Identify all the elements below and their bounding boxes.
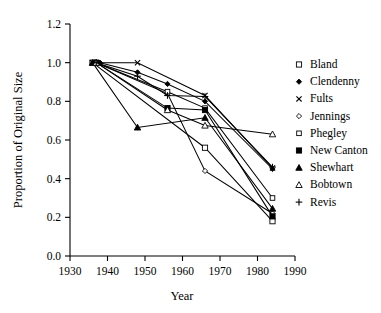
series-clendenny: [97, 60, 275, 172]
data-point-marker: [202, 168, 207, 173]
data-point-marker: [296, 62, 301, 67]
x-tick-label: 1990: [284, 265, 307, 277]
x-tick-label: 1940: [96, 265, 119, 277]
series-polyline: [100, 63, 273, 169]
legend-item-jennings[interactable]: Jennings: [296, 110, 350, 123]
y-tick-label: 0.0: [47, 250, 62, 262]
legend-item-bland[interactable]: Bland: [296, 58, 337, 70]
data-point-marker: [296, 165, 302, 171]
x-tick-label: 1950: [134, 265, 157, 277]
legend-item-label: Jennings: [310, 110, 351, 123]
data-point-marker: [202, 122, 208, 128]
legend-item-label: Clendenny: [310, 75, 360, 88]
y-tick-label: 0.4: [47, 173, 62, 185]
data-point-marker: [202, 115, 208, 121]
legend-item-bobtown[interactable]: Bobtown: [296, 178, 353, 190]
legend-item-shewhart[interactable]: Shewhart: [296, 161, 354, 173]
data-point-marker: [296, 96, 301, 101]
legend-item-fults[interactable]: Fults: [296, 92, 333, 104]
x-tick-label: 1930: [59, 265, 82, 277]
legend: BlandClendennyFultsJenningsPhegleyNew Ca…: [296, 58, 368, 208]
data-point-marker: [297, 131, 302, 136]
line-chart: 0.00.20.40.60.81.01.2 193019401950196019…: [0, 0, 381, 313]
legend-item-label: Shewhart: [310, 161, 354, 173]
series-revis: [93, 59, 276, 170]
y-tick-label: 0.6: [47, 134, 62, 146]
data-point-marker: [270, 214, 275, 219]
legend-item-new-canton[interactable]: New Canton: [296, 144, 368, 156]
data-point-marker: [296, 114, 301, 119]
x-tick-label: 1970: [209, 265, 232, 277]
legend-item-label: Phegley: [310, 127, 347, 140]
x-axis-ticks: 1930194019501960197019801990: [59, 256, 307, 277]
legend-item-clendenny[interactable]: Clendenny: [296, 75, 360, 88]
data-point-marker: [165, 81, 170, 86]
y-axis-title: Proportion of Original Size: [11, 71, 25, 208]
series-polyline: [96, 63, 272, 167]
series-shewhart: [89, 59, 275, 211]
legend-item-label: Revis: [310, 196, 337, 208]
data-point-marker: [296, 148, 301, 153]
series-phegley: [94, 60, 275, 200]
series-container: [89, 59, 275, 223]
y-axis-ticks: 0.00.20.40.60.81.01.2: [47, 18, 70, 262]
x-tick-label: 1960: [171, 265, 194, 277]
data-point-marker: [296, 79, 301, 84]
data-point-marker: [202, 145, 207, 150]
y-tick-label: 1.0: [47, 57, 62, 69]
y-tick-label: 0.2: [47, 211, 62, 223]
data-point-marker: [296, 182, 302, 188]
data-point-marker: [202, 107, 207, 112]
y-tick-label: 1.2: [47, 18, 62, 30]
data-point-marker: [270, 196, 275, 201]
legend-item-label: Bland: [310, 58, 338, 70]
y-tick-label: 0.8: [47, 95, 62, 107]
legend-item-label: Bobtown: [310, 178, 352, 190]
legend-item-revis[interactable]: Revis: [296, 196, 337, 208]
chart-figure: 0.00.20.40.60.81.01.2 193019401950196019…: [0, 0, 381, 313]
legend-item-label: Fults: [310, 92, 334, 104]
x-tick-label: 1980: [246, 265, 269, 277]
legend-item-phegley[interactable]: Phegley: [297, 127, 348, 140]
x-axis-title: Year: [170, 289, 194, 303]
data-point-marker: [296, 199, 303, 206]
legend-item-label: New Canton: [310, 144, 368, 156]
